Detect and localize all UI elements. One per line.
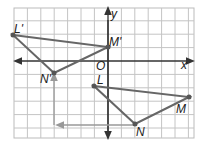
label-x-axis: x	[180, 58, 188, 72]
label-L: L	[97, 73, 104, 87]
label-N: N	[136, 125, 145, 139]
label-L-prime: L'	[14, 22, 24, 36]
label-y-axis: y	[110, 7, 118, 21]
label-M-prime: M'	[109, 35, 122, 49]
coordinate-plane: L' M' N' O x y L M N	[0, 0, 198, 147]
label-origin: O	[96, 59, 105, 73]
label-N-prime: N'	[40, 72, 52, 86]
label-M: M	[176, 102, 186, 116]
